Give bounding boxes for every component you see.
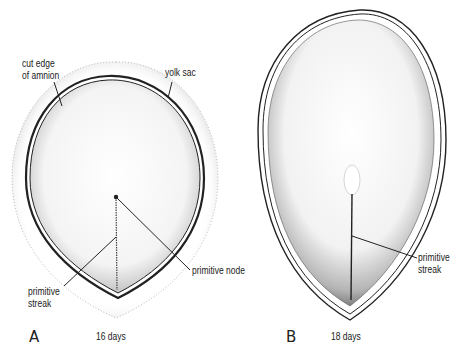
panel-a-age: 16 days (96, 331, 126, 342)
panel-b-age: 18 days (331, 331, 361, 342)
label-primitive-node: primitive node (192, 265, 245, 277)
label-yolk-sac: yolk sac (165, 67, 196, 79)
label-primitive-streak-b-line2: streak (418, 264, 441, 276)
label-primitive-streak-a-line1: primitive (28, 286, 60, 298)
label-primitive-streak-a-line2: streak (28, 298, 51, 310)
panel-letter-a: A (29, 328, 39, 346)
embryo-a-16-days (12, 62, 218, 318)
panel-letter-b: B (286, 328, 296, 346)
label-cut-edge-of-amnion-line1: cut edge (22, 58, 55, 70)
embryo-figure (0, 0, 461, 350)
label-cut-edge-of-amnion-line2: of amnion (22, 70, 59, 82)
label-primitive-streak-b-line1: primitive (418, 252, 450, 264)
